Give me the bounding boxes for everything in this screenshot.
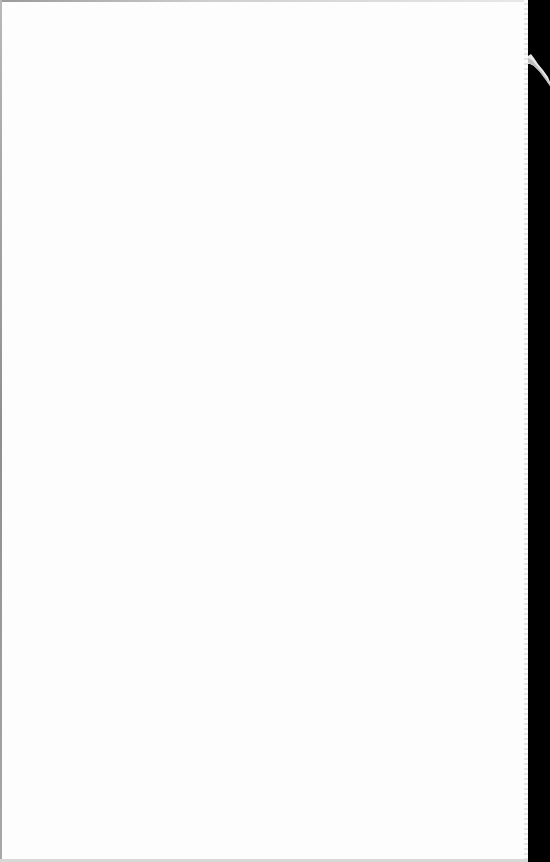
paper-top-edge	[0, 0, 528, 2]
page-text-content	[40, 40, 480, 820]
scanner-bed-background	[528, 0, 550, 862]
scanned-document	[0, 0, 550, 862]
paper-left-edge	[0, 0, 2, 862]
torn-paper-sliver	[528, 52, 550, 92]
blank-paper-page	[0, 0, 528, 862]
